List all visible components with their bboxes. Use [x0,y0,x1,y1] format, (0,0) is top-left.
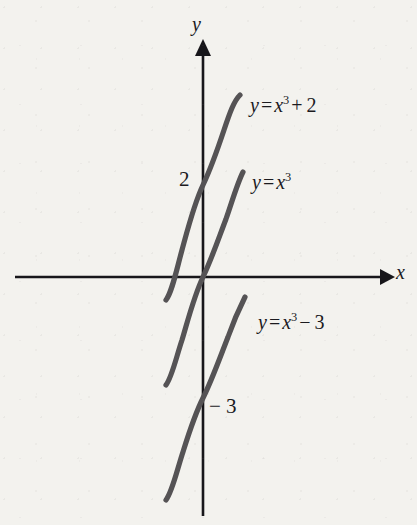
curve-y-equals-x-cubed [166,172,243,385]
x-axis-arrowhead-icon [380,269,395,285]
curve-label-mid-base: x [276,171,285,193]
y-axis-arrowhead-icon [195,39,211,56]
curve-label-bottom-rhs: 3 [313,311,327,333]
curve-label-x-cubed-plus-2: y=x3+2 [250,95,319,115]
curve-label-x-cubed: y=x3 [252,172,291,192]
y-axis-label: y [192,14,201,34]
curve-label-x-cubed-minus-3: y=x3−3 [258,312,327,332]
curve-label-top-operator: + [289,94,304,116]
curve-label-top-lhs: y [250,94,259,116]
plot-canvas [0,0,417,525]
curve-label-bottom-operator: − [297,311,312,333]
curve-label-top-rhs: 2 [305,94,319,116]
curve-label-top-equals: = [259,94,274,116]
curve-label-bottom-base: x [282,311,291,333]
curve-label-top-base: x [274,94,283,116]
curve-label-mid-lhs: y [252,171,261,193]
x-axis-label: x [396,262,405,282]
curve-label-bottom-equals: = [267,311,282,333]
y-tick-label-2: 2 [179,169,190,190]
curve-label-mid-equals: = [261,171,276,193]
cubic-graph-figure: y=x3+2 y=x3 y=x3−3 y x 2 − 3 [0,0,417,525]
y-tick-label-negative-3: − 3 [209,396,237,417]
curve-label-mid-exponent: 3 [285,170,291,184]
curve-label-bottom-lhs: y [258,311,267,333]
